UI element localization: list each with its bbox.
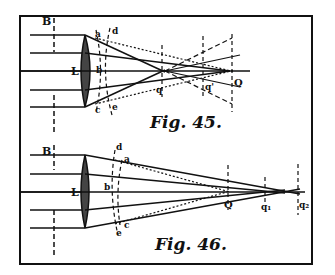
label-lens: L xyxy=(71,186,79,199)
label-stop: B xyxy=(42,15,51,28)
svg-text:Q: Q xyxy=(234,77,243,88)
svg-text:c: c xyxy=(124,220,130,230)
figure-45: B L a d b c e q q' Q Fig. 45. xyxy=(20,15,250,135)
figure-46: B L d a b c e Q q₁ q₂ Fig. 46. xyxy=(20,142,309,255)
caption-fig-45: Fig. 45. xyxy=(149,112,222,132)
svg-text:Q: Q xyxy=(224,199,233,210)
optics-diagram: B L a d b c e q q' Q Fig. 45. xyxy=(0,0,335,275)
svg-text:c: c xyxy=(95,105,101,115)
svg-text:d: d xyxy=(116,142,123,152)
svg-text:a: a xyxy=(95,29,101,39)
svg-text:q₁: q₁ xyxy=(261,202,271,212)
label-lens: L xyxy=(71,65,79,78)
caption-fig-46: Fig. 46. xyxy=(154,234,227,254)
svg-text:a: a xyxy=(124,154,130,164)
svg-text:b: b xyxy=(96,65,102,75)
svg-text:q': q' xyxy=(205,82,214,92)
svg-text:e: e xyxy=(116,228,122,238)
svg-text:b: b xyxy=(104,182,110,192)
svg-text:d: d xyxy=(112,26,119,36)
svg-text:q: q xyxy=(156,85,163,95)
label-stop: B xyxy=(42,145,51,158)
svg-text:e: e xyxy=(112,102,118,112)
svg-text:q₂: q₂ xyxy=(299,200,309,210)
